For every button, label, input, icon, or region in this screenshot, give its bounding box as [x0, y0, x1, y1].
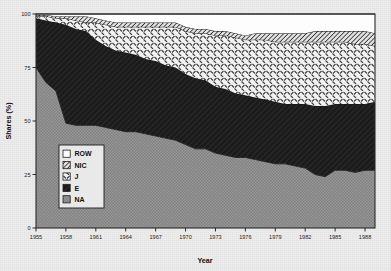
legend-label-row[interactable]: ROW — [75, 150, 93, 157]
y-tick-label: 0 — [27, 225, 30, 231]
chart-legend[interactable]: ROWNICJENA — [59, 145, 104, 208]
x-axis-ticks: 1955195819611964196719701973197619791982… — [30, 228, 371, 240]
legend-swatch-na[interactable] — [63, 196, 70, 203]
legend-swatch-e[interactable] — [63, 184, 70, 191]
x-tick-label: 1979 — [269, 234, 281, 240]
y-tick-label: 100 — [21, 11, 30, 17]
x-axis-title: Year — [197, 256, 212, 265]
y-axis-title: Shares (%) — [4, 102, 13, 140]
x-tick-label: 1988 — [359, 234, 371, 240]
y-axis-ticks: 0255075100 — [21, 11, 36, 231]
x-tick-label: 1964 — [120, 234, 132, 240]
x-tick-label: 1958 — [60, 234, 72, 240]
x-tick-label: 1967 — [149, 234, 161, 240]
x-tick-label: 1985 — [329, 234, 341, 240]
legend-swatch-nic[interactable] — [63, 162, 70, 169]
y-tick-label: 25 — [24, 172, 30, 178]
stacked-area-chart: 0255075100 19551958196119641967197019731… — [0, 0, 391, 271]
legend-label-e[interactable]: E — [75, 185, 80, 192]
y-tick-label: 50 — [24, 118, 30, 124]
legend-label-na[interactable]: NA — [75, 196, 85, 203]
x-tick-label: 1970 — [179, 234, 191, 240]
x-tick-label: 1982 — [299, 234, 311, 240]
legend-swatch-row[interactable] — [63, 150, 70, 157]
x-tick-label: 1955 — [30, 234, 42, 240]
x-tick-label: 1961 — [90, 234, 102, 240]
x-tick-label: 1973 — [209, 234, 221, 240]
y-tick-label: 75 — [24, 65, 30, 71]
legend-swatch-j[interactable] — [63, 173, 70, 180]
x-tick-label: 1976 — [239, 234, 251, 240]
legend-label-nic[interactable]: NIC — [75, 162, 87, 169]
figure-container: 0255075100 19551958196119641967197019731… — [0, 0, 391, 271]
legend-label-j[interactable]: J — [75, 173, 79, 180]
